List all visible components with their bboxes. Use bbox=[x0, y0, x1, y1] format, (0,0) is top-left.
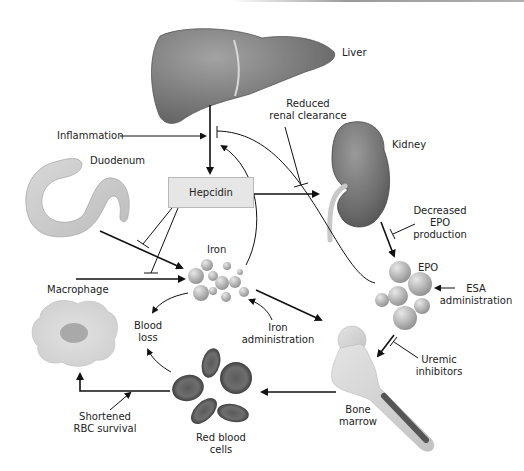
macrophage-nucleus bbox=[60, 323, 88, 343]
red-blood-cells-label: Red blood cells bbox=[186, 432, 256, 456]
inflammation-label: Inflammation bbox=[57, 130, 123, 142]
iron-label: Iron bbox=[207, 244, 226, 256]
macrophage-label: Macrophage bbox=[47, 284, 109, 296]
bone-marrow-illustration bbox=[332, 326, 434, 451]
esa-administration-label: ESA administration bbox=[436, 283, 516, 307]
iron-administration-label: Iron administration bbox=[238, 322, 318, 346]
red-blood-cells-illustration bbox=[169, 346, 252, 428]
reduced-renal-clearance-label: Reduced renal clearance bbox=[258, 98, 358, 122]
iron-spheres bbox=[188, 259, 249, 302]
duodenum-illustration bbox=[26, 159, 129, 237]
decreased-epo-production-label: Decreased EPO production bbox=[410, 205, 470, 241]
shortened-rbc-survival-label: Shortened RBC survival bbox=[70, 411, 140, 435]
kidney-label: Kidney bbox=[392, 139, 426, 151]
uremic-inhibitors-label: Uremic inhibitors bbox=[414, 354, 464, 378]
liver-label: Liver bbox=[342, 47, 367, 59]
duodenum-label: Duodenum bbox=[90, 155, 145, 167]
macrophage-illustration bbox=[32, 301, 117, 367]
blood-loss-label: Blood loss bbox=[130, 320, 166, 344]
bone-marrow-label: Bone marrow bbox=[338, 404, 378, 428]
hepcidin-node: Hepcidin bbox=[168, 177, 254, 208]
epo-label: EPO bbox=[418, 262, 438, 274]
hepcidin-label: Hepcidin bbox=[189, 187, 233, 198]
